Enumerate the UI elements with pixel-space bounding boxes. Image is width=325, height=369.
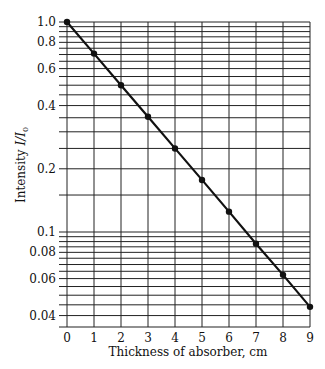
x-tick-label: 6 (225, 331, 233, 345)
x-tick-label: 7 (252, 331, 260, 345)
y-tick-label: 0.2 (37, 162, 56, 176)
y-tick-label: 0.1 (37, 225, 56, 239)
data-series-line (64, 19, 313, 310)
data-point-marker (64, 19, 70, 25)
y-tick-label: 0.06 (29, 272, 56, 286)
x-tick-label: 8 (279, 331, 287, 345)
y-tick-label: 1.0 (37, 15, 56, 29)
y-tick-label: 0.04 (29, 309, 56, 323)
chart-canvas: 1.00.80.60.40.20.10.080.060.04 012345678… (0, 0, 325, 369)
data-point-marker (145, 114, 151, 120)
x-tick-label: 4 (171, 331, 179, 345)
data-point-marker (280, 272, 286, 278)
x-tick-label: 0 (63, 331, 71, 345)
y-tick-label: 0.8 (37, 35, 56, 49)
data-point-marker (91, 50, 97, 56)
x-tick-label: 9 (306, 331, 314, 345)
data-point-marker (253, 240, 259, 246)
data-point-marker (307, 304, 313, 310)
x-tick-label: 5 (198, 331, 206, 345)
x-tick-label: 1 (90, 331, 98, 345)
x-tick-labels: 0123456789 (63, 331, 314, 345)
data-point-marker (118, 82, 124, 88)
y-tick-label: 0.4 (37, 99, 56, 113)
x-axis-label: Thickness of absorber, cm (109, 345, 268, 359)
data-point-marker (199, 177, 205, 183)
data-point-marker (172, 145, 178, 151)
data-point-marker (226, 208, 232, 214)
y-axis-label-sub: 0 (21, 127, 30, 132)
y-tick-labels: 1.00.80.60.40.20.10.080.060.04 (29, 15, 56, 323)
x-tick-label: 2 (117, 331, 125, 345)
y-tick-label: 0.6 (37, 62, 56, 76)
y-tick-label: 0.08 (29, 245, 56, 259)
y-axis-label-text: Intensity (14, 146, 28, 204)
y-axis-label-italic: I/I (14, 132, 28, 146)
y-axis-label: Intensity I/I0 (14, 127, 30, 203)
grid-lines (59, 22, 310, 327)
x-tick-label: 3 (144, 331, 152, 345)
